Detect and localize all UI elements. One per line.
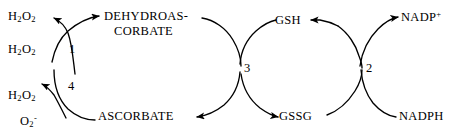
label-ascorbate: ASCORBATE [98,109,174,124]
label-superoxide-anion: O2- [20,113,37,129]
label-gssg: GSSG [279,109,312,124]
label-dehydroascorbate-line2: CORBATE [104,24,188,39]
arrow-to-gsh [240,20,276,64]
arrow-h2o2-to-dehydroascorbate [52,16,99,62]
arrow-to-nadp [360,17,398,66]
label-hydrogen-peroxide-low: H2O2 [8,88,36,103]
arrow-to-ascorbate [197,72,240,117]
curve-gssg-to-crossing2 [327,70,362,115]
arrow-to-gssg [241,74,278,117]
curve-dehydroascorbate-to-crossing3 [202,18,241,66]
arrow-gsh-head [311,20,338,26]
curve-nadph-to-crossing2 [361,70,396,117]
curve-left-to-ascorbate [54,70,95,120]
label-dehydroascorbate: DEHYDROAS- CORBATE [104,9,188,39]
enzyme-number-4: 4 [68,79,74,94]
ascorbate-glutathione-cycle-diagram: H2O2 H2O2 H2O2 O2- DEHYDROAS- CORBATE AS… [0,0,459,134]
label-nadp-plus: NADP+ [401,9,441,25]
cycle-arrows-svg [0,0,459,134]
label-gsh: GSH [275,13,301,28]
label-nadph: NADPH [399,109,444,124]
enzyme-number-3: 3 [244,61,250,76]
enzyme-number-1: 1 [69,42,75,57]
curve-gsh-to-crossing2 [338,26,362,68]
label-hydrogen-peroxide-mid: H2O2 [8,42,36,57]
enzyme-number-2: 2 [366,61,372,76]
label-dehydroascorbate-line1: DEHYDROAS- [104,9,188,24]
label-hydrogen-peroxide-top: H2O2 [8,9,36,24]
